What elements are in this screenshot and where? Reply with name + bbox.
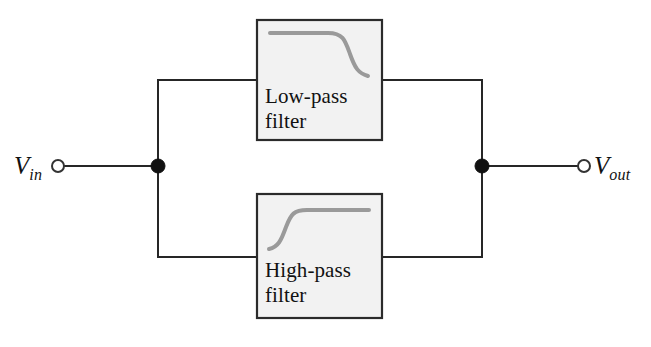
output-terminal-label-main: V — [594, 152, 609, 179]
right-junction-node — [475, 159, 489, 173]
low-pass-filter-label: Low-passfilter — [265, 84, 347, 134]
high-pass-filter-label: High-passfilter — [265, 258, 351, 308]
low-pass-filter-label-line2: filter — [265, 109, 306, 133]
output-terminal-icon[interactable] — [578, 160, 590, 172]
circuit-diagram: Vin Vout Low-passfilter High-passfilter — [0, 0, 651, 347]
input-terminal-label: Vin — [14, 152, 42, 184]
low-pass-filter-label-line1: Low-pass — [265, 84, 347, 108]
input-terminal-label-main: V — [14, 152, 29, 179]
left-junction-node — [151, 159, 165, 173]
high-pass-filter-label-line2: filter — [265, 283, 306, 307]
input-terminal-label-sub: in — [29, 166, 42, 183]
input-terminal-icon[interactable] — [52, 160, 64, 172]
output-terminal-label: Vout — [594, 152, 630, 184]
high-pass-filter-label-line1: High-pass — [265, 258, 351, 282]
output-terminal-label-sub: out — [609, 166, 630, 183]
